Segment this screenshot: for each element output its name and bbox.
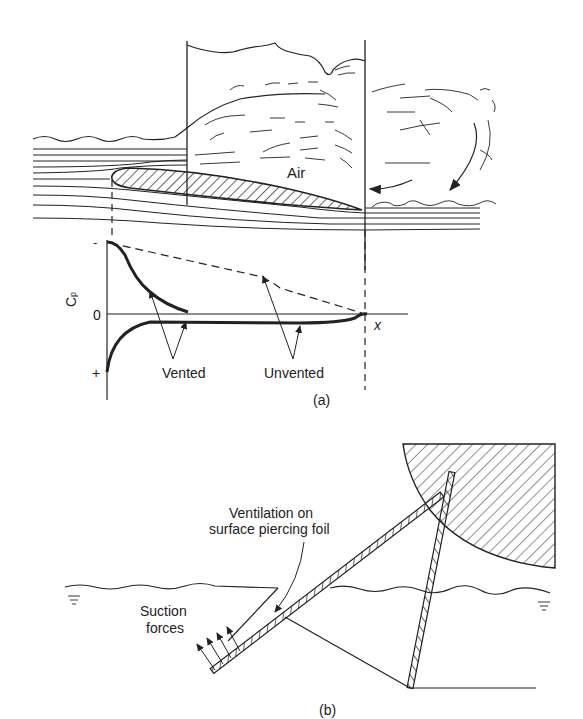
air-label: Air	[287, 165, 305, 180]
panel-a-caption: (a)	[313, 393, 330, 407]
ventilation-label-line1: Ventilation on	[229, 506, 313, 520]
x-axis-label: x	[374, 318, 381, 332]
tick-minus: -	[93, 236, 97, 249]
panel-b	[65, 444, 555, 689]
tick-zero: 0	[93, 308, 101, 322]
suction-label-line1: Suction	[140, 604, 187, 618]
cp-symbol: C	[63, 297, 79, 307]
hydrofoil-section	[112, 168, 362, 210]
tick-plus: +	[92, 366, 100, 380]
ventilation-diagram: Air Cp - 0 + x Vented Unvented (a) Venti…	[0, 0, 583, 719]
suction-label-line2: forces	[146, 621, 184, 635]
unvented-label: Unvented	[264, 366, 324, 380]
vented-label: Vented	[162, 366, 206, 380]
panel-a	[33, 40, 496, 400]
ventilation-label-line2: surface piercing foil	[209, 522, 330, 536]
diagram-drawing	[0, 0, 583, 719]
cp-axis-label: Cp	[64, 292, 78, 307]
cp-subscript: p	[68, 292, 78, 297]
panel-b-caption: (b)	[319, 703, 336, 717]
